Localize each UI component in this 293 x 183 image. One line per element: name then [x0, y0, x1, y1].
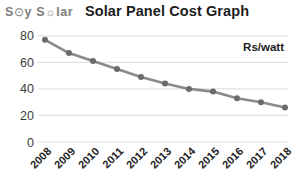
y-tick-label: 0	[27, 136, 34, 150]
x-tick-label: 2016	[220, 145, 246, 171]
y-tick-label: 60	[20, 56, 34, 70]
data-point	[162, 81, 168, 87]
x-tick-label: 2011	[100, 145, 125, 170]
x-tick-label: 2018	[268, 145, 293, 171]
data-point	[186, 86, 192, 92]
x-tick-label: 2012	[124, 145, 150, 171]
y-tick-label: 40	[20, 82, 34, 96]
x-tick-label: 2017	[244, 145, 270, 171]
data-point	[138, 74, 144, 80]
chart-card: S⊙y S☼lar Solar Panel Cost Graph 0204060…	[0, 0, 293, 183]
line-chart: 0204060802008200920102011201220132014201…	[0, 0, 293, 183]
data-point	[42, 37, 48, 43]
x-tick-label: 2009	[52, 145, 78, 171]
data-point	[90, 58, 96, 64]
data-point	[258, 99, 264, 105]
y-tick-label: 80	[20, 29, 34, 43]
x-tick-label: 2014	[172, 144, 198, 170]
unit-label: Rs/watt	[243, 41, 284, 53]
data-point	[210, 89, 216, 95]
y-tick-label: 20	[20, 109, 34, 123]
x-tick-label: 2010	[76, 145, 102, 171]
x-tick-label: 2015	[196, 145, 222, 171]
x-tick-label: 2013	[148, 145, 174, 171]
data-point	[66, 50, 72, 56]
data-point	[234, 95, 240, 101]
data-point	[282, 105, 288, 111]
data-point	[114, 66, 120, 72]
